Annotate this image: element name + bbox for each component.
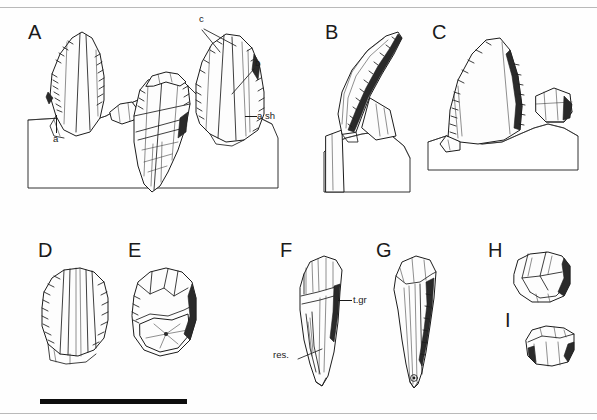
annotation-b-leader <box>228 66 262 100</box>
panel-e-illustration <box>120 258 210 368</box>
panel-f-illustration <box>288 252 358 392</box>
panel-a-illustration <box>20 20 290 210</box>
annotation-b: b <box>255 58 260 68</box>
panel-letter-g: G <box>376 240 392 260</box>
panel-letter-c: C <box>432 22 447 42</box>
panel-letter-e: E <box>128 240 142 260</box>
annotation-tgr-leader <box>338 300 352 301</box>
panel-letter-b: B <box>325 22 339 42</box>
annotation-res: res. <box>273 350 289 360</box>
panel-letter-i: I <box>505 310 511 330</box>
page-rule-bottom <box>0 413 597 414</box>
annotation-res-leader <box>296 346 326 366</box>
panel-h-illustration <box>508 248 578 310</box>
panel-letter-f: F <box>280 240 293 260</box>
panel-letter-a: A <box>28 22 42 42</box>
page-rule-top <box>0 7 597 8</box>
figure-plate: A a c b a sh B <box>0 0 597 420</box>
annotation-c: c <box>199 14 204 24</box>
annotation-t-gr: t.gr <box>353 295 367 305</box>
panel-letter-d: D <box>38 240 53 260</box>
annotation-a: a <box>53 134 58 144</box>
annotation-ash-leader <box>245 116 257 117</box>
scale-bar <box>40 399 187 404</box>
annotation-c-leaders <box>196 24 246 64</box>
annotation-a-leader <box>56 115 57 133</box>
panel-c-illustration <box>424 24 584 174</box>
annotation-a-sh: a sh <box>257 111 275 121</box>
panel-d-illustration <box>30 258 120 368</box>
panel-letter-h: H <box>488 240 503 260</box>
panel-g-illustration <box>382 250 452 395</box>
panel-i-illustration <box>520 322 582 372</box>
panel-b-illustration <box>318 24 428 194</box>
